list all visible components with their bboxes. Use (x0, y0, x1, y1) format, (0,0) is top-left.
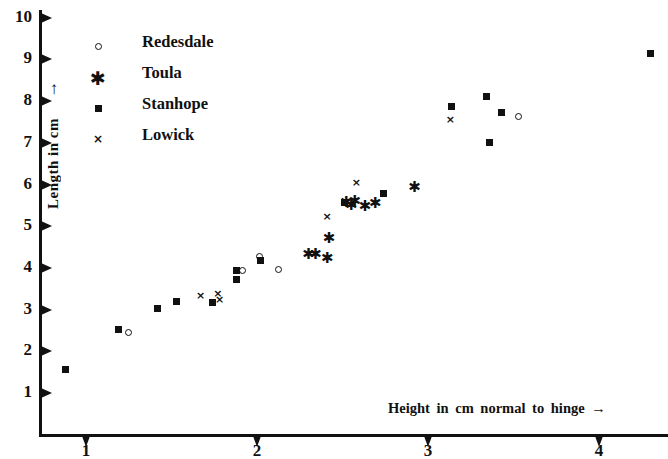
x-axis-tick-label: 2 (245, 441, 269, 459)
y-axis-direction-arrow: ↑ (45, 80, 63, 97)
data-point (62, 366, 69, 373)
data-point: × (323, 211, 332, 222)
y-axis-tick (41, 54, 52, 64)
data-point: ✱ (323, 231, 335, 246)
y-axis-tick (41, 96, 52, 106)
data-point (125, 329, 132, 336)
y-axis-tick-label: 7 (6, 132, 32, 152)
data-point (486, 139, 493, 146)
data-point (498, 109, 505, 116)
data-point (647, 50, 654, 57)
y-axis-tick-label: 8 (6, 90, 32, 110)
asterisk-icon: ✱ (85, 67, 111, 89)
y-axis-tick (41, 138, 52, 148)
data-point (515, 113, 522, 120)
data-point (154, 305, 161, 312)
y-axis-tick-label: 5 (6, 215, 32, 235)
y-axis-tick-label: 9 (6, 48, 32, 68)
y-axis-tick (41, 180, 52, 190)
legend-item-label: Lowick (142, 125, 194, 145)
y-axis-tick-label: 3 (6, 299, 32, 319)
x-axis-line (39, 434, 668, 437)
legend-item-label: Redesdale (142, 32, 214, 52)
data-point: ✱ (408, 180, 420, 195)
x-axis-label: Height in cm normal to hinge → (388, 400, 606, 417)
x-axis-label-text: Height in cm normal to hinge (388, 400, 585, 416)
y-axis-tick-label: 1 (6, 382, 32, 402)
square-filled-icon (85, 98, 111, 116)
data-point (173, 298, 180, 305)
x-axis-tick-label: 4 (587, 441, 611, 459)
circle-open-icon (85, 36, 111, 54)
y-axis-tick-label: 10 (6, 7, 32, 27)
x-axis-tick-label: 1 (74, 441, 98, 459)
y-axis-label: Length in cm (45, 118, 62, 209)
x-cross-icon: × (85, 129, 111, 147)
data-point (239, 267, 246, 274)
y-axis-tick (41, 263, 52, 273)
data-point (448, 103, 455, 110)
data-point (341, 199, 348, 206)
y-axis-tick-label: 2 (6, 340, 32, 360)
data-point (275, 266, 282, 273)
y-axis-tick (41, 13, 52, 23)
data-point (233, 276, 240, 283)
y-axis-tick-label: 6 (6, 174, 32, 194)
data-point: ✱ (309, 247, 321, 262)
legend-item-label: Stanhope (142, 94, 208, 114)
data-point: ✱ (369, 196, 381, 211)
data-point: × (446, 114, 455, 125)
y-axis-tick (41, 346, 52, 356)
x-axis-tick-label: 3 (416, 441, 440, 459)
data-point (380, 190, 387, 197)
y-axis-tick-label: 4 (6, 257, 32, 277)
x-axis-direction-arrow: → (591, 400, 606, 416)
data-point (115, 326, 122, 333)
y-axis-tick (41, 221, 52, 231)
y-axis-tick (41, 305, 52, 315)
data-point (233, 267, 240, 274)
data-point: × (352, 177, 361, 188)
data-point: ✱ (321, 251, 333, 266)
data-point: × (215, 294, 224, 305)
data-point (257, 257, 264, 264)
scatter-plot-figure: ↑ Length in cm Height in cm normal to hi… (0, 0, 668, 459)
y-axis-tick (41, 388, 52, 398)
data-point (483, 93, 490, 100)
data-point: × (196, 290, 205, 301)
legend-item-label: Toula (142, 63, 182, 83)
